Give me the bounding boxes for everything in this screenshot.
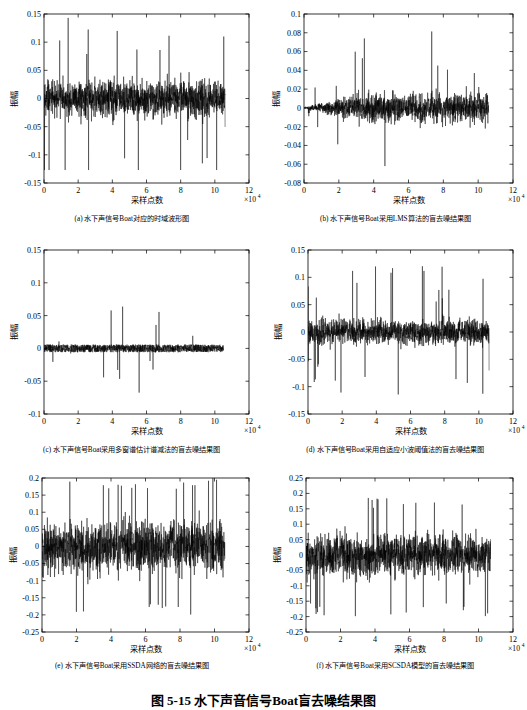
svg-text:2: 2: [340, 417, 344, 426]
svg-text:12: 12: [509, 635, 517, 644]
svg-text:4: 4: [109, 635, 113, 644]
svg-text:10: 10: [474, 635, 482, 644]
svg-text:-0.15: -0.15: [22, 594, 39, 603]
svg-text:4: 4: [258, 424, 261, 430]
svg-text:10: 10: [211, 417, 219, 426]
svg-text:-0.2: -0.2: [290, 613, 303, 622]
plot-area-c: 0246810120.150.10.050-0.05-0.1采样点数振幅×104: [0, 236, 264, 446]
svg-text:0.25: 0.25: [289, 474, 303, 483]
svg-text:4: 4: [374, 417, 378, 426]
svg-text:×10: ×10: [244, 644, 256, 653]
svg-text:-0.2: -0.2: [26, 611, 39, 620]
svg-text:0.15: 0.15: [25, 491, 39, 500]
svg-text:-0.1: -0.1: [28, 410, 41, 419]
svg-text:-0.02: -0.02: [284, 123, 301, 132]
svg-text:-0.05: -0.05: [22, 559, 39, 568]
subplot-caption-d: (d) 水下声信号Boat采用自适应小波阈值法的盲去噪结果图: [306, 447, 484, 455]
svg-text:0.15: 0.15: [289, 505, 303, 514]
svg-text:0: 0: [37, 344, 41, 353]
svg-text:6: 6: [407, 635, 411, 644]
svg-text:10: 10: [211, 186, 219, 195]
svg-text:振幅: 振幅: [272, 547, 282, 563]
svg-text:振幅: 振幅: [9, 91, 19, 107]
svg-text:-0.25: -0.25: [286, 628, 303, 637]
svg-text:-0.05: -0.05: [24, 123, 41, 132]
svg-text:0: 0: [304, 635, 308, 644]
svg-text:0.05: 0.05: [27, 66, 41, 75]
svg-text:10: 10: [474, 186, 482, 195]
waveform-chart-d: 0246810120.150.10.050-0.05-0.1-0.15采样点数振…: [264, 236, 527, 446]
waveform-chart-a: 0246810120.150.10.050-0.05-0.1-0.15采样点数振…: [0, 0, 263, 215]
svg-text:0.05: 0.05: [291, 301, 305, 310]
svg-text:4: 4: [258, 193, 261, 199]
svg-text:-0.15: -0.15: [286, 597, 303, 606]
svg-text:-0.1: -0.1: [290, 582, 303, 591]
svg-text:0.15: 0.15: [27, 10, 41, 19]
svg-text:6: 6: [144, 635, 148, 644]
svg-text:0: 0: [37, 94, 41, 103]
svg-text:2: 2: [76, 417, 80, 426]
svg-text:采样点数: 采样点数: [130, 644, 162, 654]
svg-text:6: 6: [406, 186, 410, 195]
svg-text:-0.05: -0.05: [24, 377, 41, 386]
svg-text:12: 12: [245, 417, 253, 426]
svg-text:4: 4: [373, 635, 377, 644]
svg-text:8: 8: [179, 417, 183, 426]
svg-text:0.1: 0.1: [295, 273, 305, 282]
plot-area-e: 0246810120.20.150.10.050-0.05-0.1-0.15-0…: [0, 466, 264, 662]
plot-area-b: 0246810120.10.080.060.040.020-0.02-0.04-…: [264, 0, 527, 215]
svg-text:-0.1: -0.1: [26, 577, 39, 586]
svg-text:0: 0: [301, 328, 305, 337]
subplot-e: 0246810120.20.150.10.050-0.05-0.1-0.15-0…: [0, 466, 264, 681]
svg-text:×10: ×10: [244, 195, 256, 204]
svg-text:8: 8: [441, 186, 445, 195]
svg-text:0.05: 0.05: [289, 536, 303, 545]
svg-text:-0.05: -0.05: [286, 566, 303, 575]
svg-text:12: 12: [245, 635, 253, 644]
svg-text:4: 4: [521, 424, 524, 430]
subplot-caption-b: (b) 水下声信号Boat采用LMS算法的盲去噪结果图: [320, 216, 471, 224]
svg-text:0.15: 0.15: [291, 246, 305, 255]
svg-text:×10: ×10: [508, 426, 520, 435]
svg-text:8: 8: [179, 186, 183, 195]
svg-text:10: 10: [474, 417, 482, 426]
svg-text:2: 2: [75, 635, 79, 644]
subplot-a: 0246810120.150.10.050-0.05-0.1-0.15采样点数振…: [0, 0, 264, 236]
plot-area-f: 0246810120.250.20.150.10.050-0.05-0.1-0.…: [264, 466, 527, 662]
svg-text:×10: ×10: [244, 426, 256, 435]
svg-text:4: 4: [258, 642, 261, 648]
svg-text:-0.05: -0.05: [288, 355, 305, 364]
svg-text:0.1: 0.1: [293, 520, 303, 529]
svg-text:0.2: 0.2: [29, 474, 39, 483]
subplot-caption-e: (e) 水下声信号Boat采用SSDA网络的盲去噪结果图: [55, 663, 209, 671]
svg-text:0: 0: [306, 417, 310, 426]
svg-text:4: 4: [371, 186, 375, 195]
svg-text:2: 2: [76, 186, 80, 195]
svg-text:振幅: 振幅: [271, 91, 281, 107]
svg-text:0: 0: [35, 542, 39, 551]
svg-text:8: 8: [442, 635, 446, 644]
svg-text:6: 6: [408, 417, 412, 426]
svg-text:0.1: 0.1: [29, 508, 39, 517]
svg-text:0: 0: [42, 186, 46, 195]
svg-text:4: 4: [110, 417, 114, 426]
svg-text:×10: ×10: [508, 644, 520, 653]
svg-text:4: 4: [110, 186, 114, 195]
subplot-caption-a: (a) 水下声信号Boat对应的时域波形图: [75, 216, 189, 224]
subplot-caption-c: (c) 水下声信号Boat采用多窗谱估计谱减法的盲去噪结果图: [43, 447, 220, 455]
svg-text:12: 12: [509, 417, 517, 426]
svg-text:8: 8: [178, 635, 182, 644]
plot-area-d: 0246810120.150.10.050-0.05-0.1-0.15采样点数振…: [264, 236, 527, 446]
plot-area-a: 0246810120.150.10.050-0.05-0.1-0.15采样点数振…: [0, 0, 264, 215]
svg-text:0.2: 0.2: [293, 489, 303, 498]
waveform-chart-e: 0246810120.20.150.10.050-0.05-0.1-0.15-0…: [0, 466, 263, 662]
svg-text:-0.04: -0.04: [284, 141, 301, 150]
svg-text:-0.25: -0.25: [22, 628, 39, 637]
svg-text:采样点数: 采样点数: [392, 195, 424, 205]
svg-text:-0.15: -0.15: [288, 410, 305, 419]
svg-text:-0.06: -0.06: [284, 160, 301, 169]
svg-text:0.08: 0.08: [287, 29, 301, 38]
svg-text:0.1: 0.1: [291, 10, 301, 19]
svg-text:×10: ×10: [508, 195, 520, 204]
svg-text:2: 2: [338, 635, 342, 644]
